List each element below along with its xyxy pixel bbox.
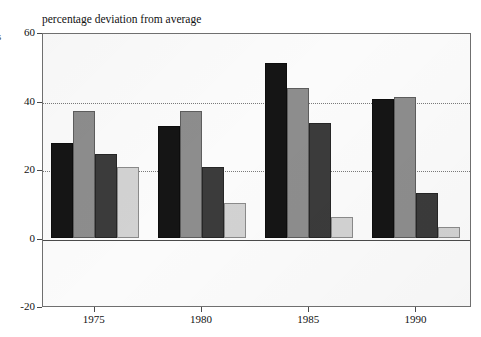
y-tick-mark--20 bbox=[37, 307, 42, 308]
x-tick-label-1975: 1975 bbox=[64, 313, 124, 325]
bar-1985-series-1 bbox=[265, 63, 287, 238]
y-tick-mark-60 bbox=[37, 33, 42, 34]
bar-1990-series-4 bbox=[438, 227, 460, 237]
y-tick-mark-20 bbox=[37, 170, 42, 171]
x-tick-mark-1980 bbox=[201, 307, 202, 312]
x-tick-mark-1990 bbox=[415, 307, 416, 312]
chart-title: percentage deviation from average bbox=[42, 13, 201, 26]
bar-1985-series-4 bbox=[331, 217, 353, 238]
x-tick-label-1990: 1990 bbox=[385, 313, 445, 325]
bar-1980-series-2 bbox=[180, 111, 202, 237]
bars-layer bbox=[43, 34, 470, 306]
y-tick-label-40: 40 bbox=[5, 96, 35, 107]
cropped-edge-glyph: s bbox=[0, 31, 1, 42]
bar-1980-series-1 bbox=[158, 126, 180, 237]
x-tick-label-1985: 1985 bbox=[278, 313, 338, 325]
bar-1985-series-2 bbox=[287, 88, 309, 238]
bar-1980-series-3 bbox=[202, 167, 224, 237]
y-tick-label-0: 0 bbox=[5, 233, 35, 244]
y-tick-label--20: -20 bbox=[5, 301, 35, 312]
y-tick-mark-0 bbox=[37, 239, 42, 240]
bar-1975-series-1 bbox=[51, 143, 73, 237]
y-tick-mark-40 bbox=[37, 102, 42, 103]
bar-1980-series-4 bbox=[224, 203, 246, 237]
x-tick-mark-1975 bbox=[94, 307, 95, 312]
bar-1985-series-3 bbox=[309, 123, 331, 238]
x-tick-mark-1985 bbox=[308, 307, 309, 312]
bar-1990-series-2 bbox=[394, 97, 416, 237]
bar-1990-series-3 bbox=[416, 193, 438, 238]
bar-1975-series-4 bbox=[117, 167, 139, 238]
bar-1975-series-3 bbox=[95, 154, 117, 238]
y-tick-label-60: 60 bbox=[5, 27, 35, 38]
plot-area bbox=[42, 33, 471, 307]
figure: s percentage deviation from average 6040… bbox=[0, 0, 481, 337]
bar-1975-series-2 bbox=[73, 111, 95, 237]
bar-1990-series-1 bbox=[372, 99, 394, 238]
x-tick-label-1980: 1980 bbox=[171, 313, 231, 325]
y-tick-label-20: 20 bbox=[5, 164, 35, 175]
